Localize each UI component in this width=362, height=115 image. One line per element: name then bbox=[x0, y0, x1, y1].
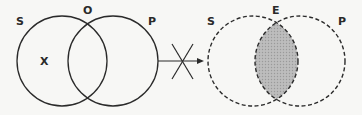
left-top-label: O bbox=[83, 4, 92, 17]
right-top-label: E bbox=[272, 4, 280, 17]
left-venn-diagram: S O P X bbox=[16, 4, 158, 106]
left-predicate-label: P bbox=[148, 15, 156, 28]
crossed-arrow-connector bbox=[158, 44, 204, 79]
arrowhead-icon bbox=[197, 58, 204, 64]
right-predicate-label: P bbox=[338, 15, 346, 28]
right-subject-label: S bbox=[207, 15, 215, 28]
right-venn-diagram: S E P bbox=[207, 4, 346, 106]
diagram-canvas: S O P X S E P bbox=[0, 0, 362, 115]
left-predicate-circle bbox=[68, 16, 158, 106]
left-subject-circle bbox=[17, 16, 107, 106]
left-subject-label: S bbox=[16, 15, 24, 28]
venn-diagram-figure: S O P X S E P bbox=[0, 0, 362, 115]
left-x-mark: X bbox=[40, 55, 49, 68]
